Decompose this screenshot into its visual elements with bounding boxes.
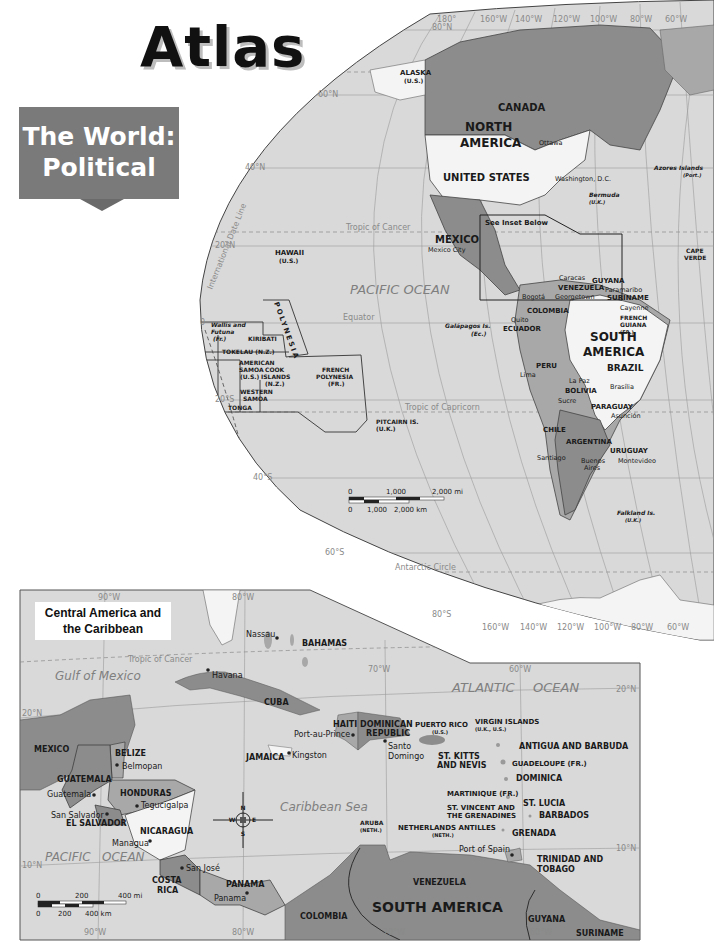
svg-text:Gulf of Mexico: Gulf of Mexico bbox=[55, 669, 141, 683]
svg-text:Havana: Havana bbox=[212, 671, 243, 680]
svg-text:EL SALVADOR: EL SALVADOR bbox=[66, 819, 127, 828]
svg-text:ARUBA: ARUBA bbox=[360, 819, 384, 826]
svg-text:URUGUAY: URUGUAY bbox=[610, 447, 649, 455]
belize-shape bbox=[110, 742, 125, 778]
svg-text:SURINAME: SURINAME bbox=[576, 929, 624, 938]
svg-text:AND NEVIS: AND NEVIS bbox=[437, 761, 487, 770]
svg-text:(Fr.): (Fr.) bbox=[213, 335, 227, 342]
svg-text:(U.K.): (U.K.) bbox=[376, 425, 396, 432]
svg-text:Santo: Santo bbox=[388, 742, 411, 751]
svg-text:Asunción: Asunción bbox=[611, 412, 641, 420]
svg-text:VENEZUELA: VENEZUELA bbox=[558, 284, 605, 292]
svg-text:10°N: 10°N bbox=[616, 844, 636, 853]
svg-text:40°S: 40°S bbox=[253, 473, 272, 482]
svg-text:10°N: 10°N bbox=[22, 861, 42, 870]
svg-text:Port-au-Prince: Port-au-Prince bbox=[294, 730, 350, 739]
svg-text:Galápagos Is.: Galápagos Is. bbox=[445, 322, 491, 330]
svg-text:Kingston: Kingston bbox=[292, 751, 327, 760]
svg-text:GUIANA: GUIANA bbox=[620, 321, 647, 328]
svg-text:ALASKA: ALASKA bbox=[400, 69, 432, 77]
svg-text:Brasília: Brasília bbox=[610, 383, 634, 391]
inset-title-line-2: the Caribbean bbox=[63, 622, 143, 636]
svg-text:0: 0 bbox=[36, 892, 40, 900]
svg-text:Tegucigalpa: Tegucigalpa bbox=[140, 801, 189, 810]
svg-text:ATLANTIC: ATLANTIC bbox=[451, 680, 516, 695]
svg-text:ECUADOR: ECUADOR bbox=[503, 325, 542, 333]
svg-text:20°N: 20°N bbox=[22, 709, 42, 718]
svg-text:160°W: 160°W bbox=[480, 15, 507, 24]
svg-text:COLOMBIA: COLOMBIA bbox=[527, 307, 569, 315]
svg-text:VIRGIN ISLANDS: VIRGIN ISLANDS bbox=[475, 718, 539, 726]
svg-text:UNITED STATES: UNITED STATES bbox=[443, 172, 530, 183]
svg-text:REPUBLIC: REPUBLIC bbox=[366, 729, 410, 738]
svg-text:80°N: 80°N bbox=[432, 23, 452, 32]
svg-text:GUATEMALA: GUATEMALA bbox=[57, 775, 113, 784]
svg-text:Ottawa: Ottawa bbox=[539, 139, 563, 147]
svg-text:TOKELAU (N.Z.): TOKELAU (N.Z.) bbox=[222, 348, 275, 355]
svg-text:120°W: 120°W bbox=[553, 15, 580, 24]
svg-text:Lima: Lima bbox=[520, 371, 536, 379]
svg-text:140°W: 140°W bbox=[515, 15, 542, 24]
svg-text:Bogotá: Bogotá bbox=[522, 293, 545, 301]
svg-text:SOUTH AMERICA: SOUTH AMERICA bbox=[372, 899, 503, 915]
svg-text:San Salvador: San Salvador bbox=[51, 811, 104, 820]
svg-text:ANTIGUA AND BARBUDA: ANTIGUA AND BARBUDA bbox=[519, 742, 629, 751]
svg-text:PUERTO RICO: PUERTO RICO bbox=[415, 721, 468, 729]
svg-text:SAMOA: SAMOA bbox=[239, 366, 264, 373]
svg-text:Equator: Equator bbox=[343, 313, 375, 322]
svg-text:GUADELOUPE (FR.): GUADELOUPE (FR.) bbox=[512, 760, 587, 768]
svg-text:200: 200 bbox=[75, 892, 88, 900]
svg-text:CANADA: CANADA bbox=[498, 102, 545, 113]
svg-text:Belmopan: Belmopan bbox=[122, 762, 162, 771]
svg-text:Paramaribo: Paramaribo bbox=[605, 286, 642, 294]
svg-text:0: 0 bbox=[348, 488, 352, 496]
svg-text:PACIFIC: PACIFIC bbox=[45, 850, 91, 864]
svg-text:40°N: 40°N bbox=[245, 163, 265, 172]
inset-map-central-america-caribbean: Central America and the Caribbean 90°W 8… bbox=[20, 590, 640, 940]
svg-text:Georgetown: Georgetown bbox=[555, 293, 595, 301]
svg-text:120°W: 120°W bbox=[557, 623, 584, 632]
svg-text:BAHAMAS: BAHAMAS bbox=[302, 639, 347, 648]
svg-text:60°N: 60°N bbox=[318, 90, 338, 99]
svg-text:PERU: PERU bbox=[536, 362, 557, 370]
svg-text:BRAZIL: BRAZIL bbox=[607, 363, 644, 373]
svg-text:FRENCH: FRENCH bbox=[620, 314, 647, 321]
svg-text:BARBADOS: BARBADOS bbox=[539, 811, 589, 820]
svg-text:Tropic of Cancer: Tropic of Cancer bbox=[127, 655, 193, 664]
svg-text:Domingo: Domingo bbox=[388, 752, 424, 761]
svg-text:20°N: 20°N bbox=[616, 685, 636, 694]
svg-text:ISLANDS: ISLANDS bbox=[261, 373, 290, 380]
svg-text:DOMINICA: DOMINICA bbox=[516, 774, 563, 783]
svg-text:La Paz: La Paz bbox=[569, 377, 590, 385]
svg-text:140°W: 140°W bbox=[520, 623, 547, 632]
canada-shape bbox=[425, 25, 680, 150]
svg-text:MEXICO: MEXICO bbox=[34, 745, 69, 754]
svg-text:60°S: 60°S bbox=[325, 548, 344, 557]
svg-text:TOBAGO: TOBAGO bbox=[537, 865, 575, 874]
svg-text:S: S bbox=[241, 830, 245, 837]
svg-text:WESTERN: WESTERN bbox=[240, 388, 273, 395]
inset-title-line-1: Central America and bbox=[45, 606, 161, 620]
svg-text:80°W: 80°W bbox=[631, 623, 653, 632]
svg-text:NETHERLANDS ANTILLES: NETHERLANDS ANTILLES bbox=[398, 824, 496, 832]
svg-text:Santiago: Santiago bbox=[537, 454, 566, 462]
svg-text:BELIZE: BELIZE bbox=[115, 749, 146, 758]
svg-text:JAMAICA: JAMAICA bbox=[245, 753, 285, 762]
svg-text:80°W: 80°W bbox=[232, 593, 254, 602]
svg-text:20°S: 20°S bbox=[215, 395, 234, 404]
svg-text:Antarctic Circle: Antarctic Circle bbox=[395, 563, 456, 572]
svg-text:HAITI: HAITI bbox=[333, 720, 357, 729]
svg-text:0: 0 bbox=[200, 318, 205, 327]
svg-text:400 km: 400 km bbox=[85, 910, 112, 918]
svg-text:60°W: 60°W bbox=[509, 665, 531, 674]
svg-text:MEXICO: MEXICO bbox=[435, 234, 479, 245]
svg-text:(U.S.): (U.S.) bbox=[432, 729, 448, 735]
svg-text:80°W: 80°W bbox=[630, 15, 652, 24]
svg-text:HONDURAS: HONDURAS bbox=[120, 789, 172, 798]
svg-text:60°W: 60°W bbox=[667, 623, 689, 632]
svg-text:Panama: Panama bbox=[214, 894, 246, 903]
svg-text:Bermuda: Bermuda bbox=[589, 191, 619, 198]
svg-text:(FR.): (FR.) bbox=[620, 329, 634, 335]
svg-text:(Ec.): (Ec.) bbox=[471, 330, 487, 337]
svg-text:(U.S.): (U.S.) bbox=[279, 257, 298, 264]
